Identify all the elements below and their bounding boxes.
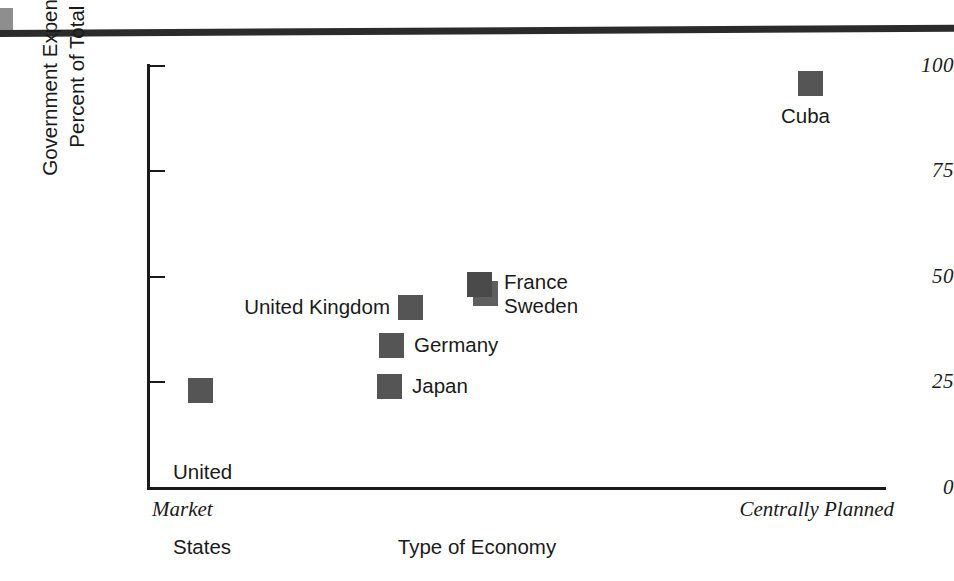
data-label-united-kingdom: United Kingdom [238, 294, 390, 319]
data-marker-united-kingdom[interactable] [398, 295, 423, 320]
data-marker-germany[interactable] [379, 333, 404, 358]
y-tick-label-100: 100 [817, 53, 954, 78]
y-tick-label-75: 75 [817, 158, 954, 183]
chart-page: 100 75 50 25 0 Government Expenditures a… [0, 0, 954, 581]
x-axis-title: Type of Economy [0, 535, 954, 559]
y-tick-mark-75 [150, 170, 165, 172]
x-axis-right-endpoint-label: Centrally Planned [739, 497, 894, 522]
y-tick-mark-50 [150, 276, 165, 278]
data-label-japan: Japan [412, 373, 468, 398]
data-marker-japan[interactable] [377, 374, 402, 399]
y-tick-mark-25 [150, 381, 165, 383]
y-axis-title-line-2: Percent of Total Output [63, 0, 90, 208]
data-marker-united-states[interactable] [188, 378, 213, 403]
data-label-cuba: Cuba [781, 103, 830, 128]
data-marker-cuba[interactable] [798, 71, 823, 96]
data-label-france: France [504, 269, 568, 294]
y-tick-label-50: 50 [817, 264, 954, 289]
data-label-sweden: Sweden [504, 293, 578, 318]
data-marker-france[interactable] [467, 272, 492, 297]
y-tick-mark-100 [150, 65, 165, 67]
data-label-united-states-line-1: United [173, 459, 232, 484]
y-axis-title: Government Expenditures as Percent of To… [36, 0, 92, 208]
y-tick-label-25: 25 [817, 369, 954, 394]
data-label-germany: Germany [414, 332, 498, 357]
x-axis-left-endpoint-label: Market [152, 497, 213, 522]
y-axis-title-line-1: Government Expenditures as [36, 0, 63, 208]
